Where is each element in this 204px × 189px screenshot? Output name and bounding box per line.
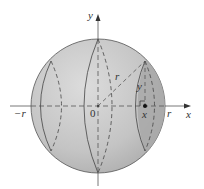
x-axis-label: x [185,108,191,120]
origin-label: 0 [90,107,96,119]
sphere-diagram: y x 0 −r r r y x [0,0,204,189]
radius-label: r [115,70,120,82]
neg-r-label: −r [14,107,26,119]
y-axis-arrow-icon [96,14,101,21]
origin-dot [97,105,99,107]
point-x-label: x [141,108,147,120]
y-axis-label: y [87,9,93,21]
height-label: y [136,80,142,92]
pos-r-label: r [167,107,172,119]
